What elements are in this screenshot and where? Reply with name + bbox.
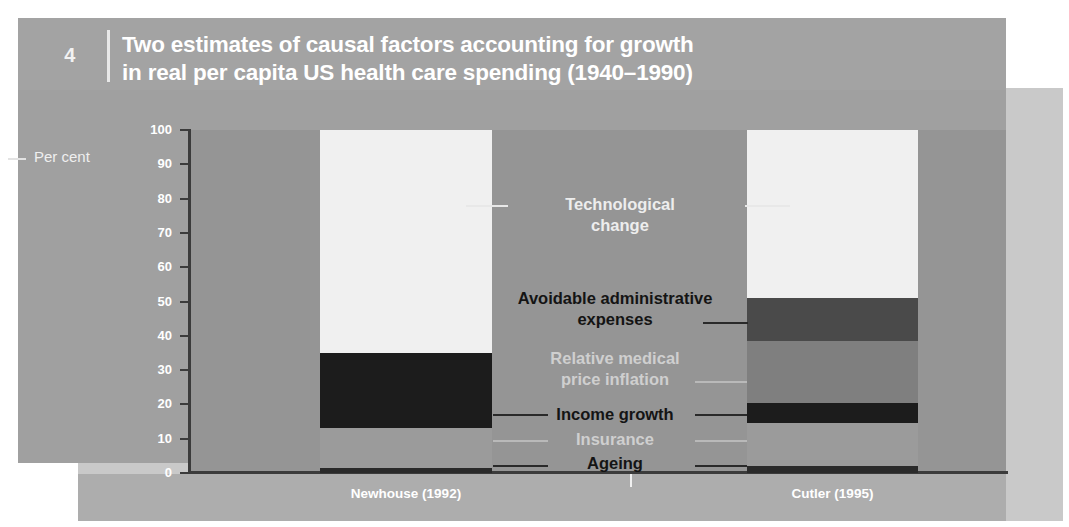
- bar-segment-ageing[interactable]: [320, 468, 492, 473]
- leader-line-insurance-2: [695, 440, 747, 442]
- bar-cutler-1995[interactable]: [747, 130, 918, 473]
- y-tick-90: [180, 163, 191, 165]
- y-tick-60: [180, 266, 191, 268]
- annotation-text: Avoidable administrative: [518, 289, 713, 307]
- leader-line-relative-medical-price-inflation-1: [695, 381, 747, 383]
- x-axis-center-tick: [630, 474, 632, 487]
- y-tick-label-30: 30: [128, 362, 172, 377]
- annotation-text: Relative medical: [550, 349, 679, 367]
- annotation-ageing: Ageing: [500, 453, 730, 474]
- bar-newhouse-1992[interactable]: [320, 130, 492, 473]
- leader-line-insurance-1: [493, 440, 548, 442]
- bar-segment-technological-change[interactable]: [320, 130, 492, 353]
- y-tick-label-90: 90: [128, 156, 172, 171]
- leader-line-ageing-2: [695, 465, 747, 467]
- annotation-text: price inflation: [561, 370, 669, 388]
- y-tick-label-40: 40: [128, 328, 172, 343]
- annotation-relative-medical-price-inflation: Relative medicalprice inflation: [500, 348, 730, 390]
- y-tick-label-100: 100: [128, 122, 172, 137]
- annotation-text: Insurance: [576, 430, 654, 448]
- annotation-text: expenses: [577, 310, 652, 328]
- bar-segment-relative-medical-price-inflation[interactable]: [747, 341, 918, 403]
- title-line-1: Two estimates of causal factors accounti…: [122, 32, 694, 57]
- y-tick-label-10: 10: [128, 431, 172, 446]
- y-tick-30: [180, 369, 191, 371]
- y-tick-10: [180, 438, 191, 440]
- y-tick-50: [180, 301, 191, 303]
- leader-line-technological-change-1: [466, 205, 508, 207]
- leader-line-ageing-1: [493, 465, 548, 467]
- bar-segment-technological-change[interactable]: [747, 130, 918, 298]
- figure-panel: 4 Two estimates of causal factors accoun…: [0, 0, 1069, 527]
- title-divider: [107, 30, 110, 82]
- bar-segment-income-growth[interactable]: [320, 353, 492, 428]
- y-tick-100: [180, 129, 191, 131]
- annotation-text: Ageing: [587, 454, 643, 472]
- page-title: Two estimates of causal factors accounti…: [122, 31, 952, 87]
- leader-line-income-growth-2: [695, 414, 747, 416]
- y-tick-label-80: 80: [128, 191, 172, 206]
- right-strip: [1006, 88, 1063, 521]
- annotation-text: change: [591, 216, 649, 234]
- y-tick-label-0: 0: [128, 465, 172, 480]
- leader-line-technological-change-2: [745, 205, 790, 207]
- y-tick-label-70: 70: [128, 225, 172, 240]
- annotation-text: Income growth: [556, 405, 673, 423]
- annotation-technological-change: Technologicalchange: [500, 194, 740, 236]
- y-tick-0: [180, 472, 191, 474]
- x-axis-label-1: Newhouse (1992): [250, 486, 562, 501]
- y-tick-label-50: 50: [128, 294, 172, 309]
- y-tick-40: [180, 335, 191, 337]
- y-tick-70: [180, 232, 191, 234]
- y-axis-label: Per cent: [34, 148, 90, 165]
- y-tick-20: [180, 403, 191, 405]
- figure-number: 4: [40, 44, 100, 67]
- bar-segment-income-growth[interactable]: [747, 403, 918, 424]
- y-tick-label-20: 20: [128, 396, 172, 411]
- y-tick-80: [180, 198, 191, 200]
- y-tick-label-60: 60: [128, 259, 172, 274]
- leader-line-avoidable-administrative-expenses-1: [703, 322, 748, 324]
- per-cent-leader: [8, 158, 26, 160]
- leader-line-income-growth-1: [493, 414, 548, 416]
- annotation-text: Technological: [565, 195, 675, 213]
- x-axis-label-2: Cutler (1995): [677, 486, 988, 501]
- bar-segment-avoidable-administrative-expenses[interactable]: [747, 298, 918, 341]
- bar-segment-ageing[interactable]: [747, 466, 918, 473]
- title-line-2: in real per capita US health care spendi…: [122, 59, 952, 87]
- bar-segment-insurance[interactable]: [320, 428, 492, 467]
- bar-segment-insurance[interactable]: [747, 423, 918, 466]
